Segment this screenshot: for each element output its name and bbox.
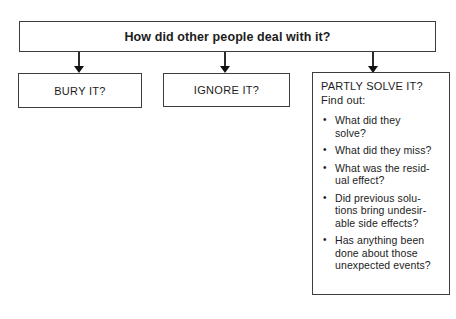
partly-solve-bullet-list: • What did they solve? • What did they m… bbox=[321, 114, 443, 272]
bullet-text: Has anything been done about those unexp… bbox=[335, 234, 431, 272]
list-item: • What did they miss? bbox=[321, 144, 443, 157]
node-ignore-it: IGNORE IT? bbox=[163, 73, 290, 107]
root-question-label: How did other people deal with it? bbox=[124, 30, 330, 44]
root-question-box: How did other people deal with it? bbox=[19, 21, 436, 52]
list-item: • Did previous solu- tions bring undesir… bbox=[321, 192, 443, 230]
bullet-icon: • bbox=[321, 114, 335, 127]
bullet-text: What did they miss? bbox=[335, 144, 431, 157]
bullet-icon: • bbox=[321, 162, 335, 175]
connector-stem bbox=[224, 52, 226, 67]
partly-solve-title: PARTLY SOLVE IT? bbox=[321, 79, 443, 93]
arrowhead-down-icon bbox=[220, 66, 230, 73]
connector-arrow-bury bbox=[73, 52, 85, 73]
partly-solve-subtitle: Find out: bbox=[321, 93, 443, 107]
bullet-text: What did they solve? bbox=[335, 114, 401, 139]
node-ignore-it-label: IGNORE IT? bbox=[194, 84, 259, 96]
node-bury-it-label: BURY IT? bbox=[54, 85, 106, 97]
node-partly-solve-it: PARTLY SOLVE IT? Find out: • What did th… bbox=[312, 72, 450, 295]
flowchart-diagram: How did other people deal with it? BURY … bbox=[0, 0, 456, 319]
list-item: • What was the resid- ual effect? bbox=[321, 162, 443, 187]
bullet-icon: • bbox=[321, 192, 335, 205]
bullet-text: What was the resid- ual effect? bbox=[335, 162, 430, 187]
list-item: • What did they solve? bbox=[321, 114, 443, 139]
partly-solve-header: PARTLY SOLVE IT? Find out: bbox=[321, 79, 443, 107]
list-item: • Has anything been done about those une… bbox=[321, 234, 443, 272]
node-bury-it: BURY IT? bbox=[18, 73, 142, 108]
connector-arrow-partly-solve bbox=[367, 52, 379, 73]
connector-stem bbox=[372, 52, 374, 67]
connector-arrow-ignore bbox=[219, 52, 231, 73]
arrowhead-down-icon bbox=[74, 66, 84, 73]
bullet-icon: • bbox=[321, 144, 335, 157]
connector-stem bbox=[78, 52, 80, 67]
bullet-text: Did previous solu- tions bring undesir- … bbox=[335, 192, 426, 230]
bullet-icon: • bbox=[321, 234, 335, 247]
